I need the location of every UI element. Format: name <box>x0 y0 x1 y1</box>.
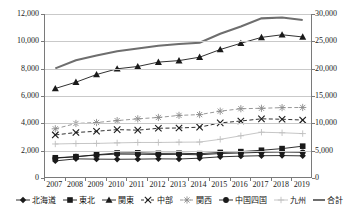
legend-label: 関西 <box>196 196 212 205</box>
y-axis-right-tickmark <box>312 123 315 124</box>
data-point-circle <box>94 152 100 158</box>
legend-item-合計[interactable]: 合計 <box>312 195 343 205</box>
y-axis-left-tick: 12,000 <box>17 10 39 18</box>
y-axis-right-tick: 25,000 <box>315 37 337 45</box>
legend-label: 北海道 <box>32 196 56 205</box>
plot-area <box>44 14 312 178</box>
x-axis-tickmark <box>168 178 169 181</box>
chart-legend: 北海道東北関東中部関西中国四国九州合計 <box>0 193 357 207</box>
legend-item-中部[interactable]: 中部 <box>140 195 173 205</box>
data-point-plus <box>52 141 58 147</box>
legend-label: 合計 <box>327 196 343 205</box>
legend-item-東北[interactable]: 東北 <box>62 195 95 205</box>
legend-item-中国四国[interactable]: 中国四国 <box>218 195 267 205</box>
data-point-asterisk <box>237 105 244 112</box>
y-axis-right-tickmark <box>312 178 315 179</box>
data-point-circle <box>155 152 161 158</box>
data-point-x <box>144 197 150 203</box>
data-point-circle <box>114 151 120 157</box>
data-point-plus <box>73 140 79 146</box>
y-axis-left-tickmark <box>41 41 44 42</box>
y-axis-left-tick: 2,000 <box>21 147 39 155</box>
gridline <box>45 41 311 42</box>
data-point-plus <box>299 130 305 136</box>
legend-marker-plus-icon <box>273 195 289 205</box>
gridline <box>45 151 311 152</box>
data-point-plus <box>155 139 161 145</box>
data-point-plus <box>279 130 285 136</box>
data-point-plus <box>196 139 202 145</box>
y-axis-left-tickmark <box>41 96 44 97</box>
legend-marker-circle-icon <box>218 195 234 205</box>
legend-marker-asterisk-icon <box>179 195 195 205</box>
y-axis-left-tickmark <box>41 69 44 70</box>
x-axis-tickmark <box>230 178 231 181</box>
y-axis-right-tick: 15,000 <box>315 92 337 100</box>
legend-label: 中部 <box>157 196 173 205</box>
data-point-plus <box>93 140 99 146</box>
y-axis-right-tick: 30,000 <box>315 10 337 18</box>
data-point-square <box>67 197 73 203</box>
data-point-diamond <box>19 197 25 203</box>
x-axis-tickmark <box>126 178 127 181</box>
data-point-circle <box>52 155 58 161</box>
data-point-circle <box>197 152 203 158</box>
chart-container: 北海道東北関東中部関西中国四国九州合計 02,0004,0006,0008,00… <box>0 0 357 209</box>
y-axis-left-tick: 10,000 <box>17 37 39 45</box>
legend-label: 中国四国 <box>235 196 267 205</box>
data-point-asterisk <box>196 111 203 118</box>
data-point-x <box>196 124 202 130</box>
y-axis-left-tick: 6,000 <box>21 92 39 100</box>
x-axis-tickmark <box>106 178 107 181</box>
x-axis-tickmark <box>188 178 189 181</box>
data-point-asterisk <box>175 112 182 119</box>
y-axis-left-tick: 0 <box>35 174 39 182</box>
data-point-asterisk <box>217 108 224 115</box>
data-point-x <box>299 117 305 123</box>
legend-item-北海道[interactable]: 北海道 <box>15 195 56 205</box>
data-point-plus <box>135 139 141 145</box>
data-point-asterisk <box>278 104 285 111</box>
legend-label: 東北 <box>79 196 95 205</box>
data-point-triangle <box>279 31 286 37</box>
y-axis-right-tickmark <box>312 69 315 70</box>
y-axis-left-tickmark <box>41 123 44 124</box>
x-axis-tick: 2019 <box>289 181 315 189</box>
y-axis-left-tick: 4,000 <box>21 119 39 127</box>
legend-marker-x-icon <box>140 195 156 205</box>
x-axis-tickmark <box>291 178 292 181</box>
gridline <box>45 123 311 124</box>
data-point-circle <box>73 154 79 160</box>
data-point-circle <box>223 197 229 203</box>
data-point-asterisk <box>183 196 190 203</box>
y-axis-left-tickmark <box>41 14 44 15</box>
y-axis-left-tickmark <box>41 151 44 152</box>
legend-marker-square-icon <box>62 195 78 205</box>
y-axis-right-tickmark <box>312 14 315 15</box>
y-axis-right-tickmark <box>312 96 315 97</box>
y-axis-left-tick: 8,000 <box>21 65 39 73</box>
y-axis-right-tick: 10,000 <box>315 119 337 127</box>
data-point-plus <box>217 136 223 142</box>
legend-marker-triangle-icon <box>101 195 117 205</box>
data-point-triangle <box>196 54 203 60</box>
legend-item-関東[interactable]: 関東 <box>101 195 134 205</box>
y-axis-right-tickmark <box>312 151 315 152</box>
y-axis-right-tickmark <box>312 41 315 42</box>
data-point-plus <box>238 133 244 139</box>
legend-item-九州[interactable]: 九州 <box>273 195 306 205</box>
legend-label: 九州 <box>290 196 306 205</box>
y-axis-right-tick: 20,000 <box>315 65 337 73</box>
x-axis-tickmark <box>44 178 45 181</box>
data-point-plus <box>277 197 283 203</box>
data-point-circle <box>176 151 182 157</box>
gridline <box>45 14 311 15</box>
legend-label: 関東 <box>118 196 134 205</box>
data-point-circle <box>135 151 141 157</box>
x-axis-tickmark <box>85 178 86 181</box>
legend-item-関西[interactable]: 関西 <box>179 195 212 205</box>
data-point-asterisk <box>299 104 306 111</box>
data-point-asterisk <box>134 115 141 122</box>
data-point-plus <box>176 139 182 145</box>
data-point-plus <box>114 140 120 146</box>
